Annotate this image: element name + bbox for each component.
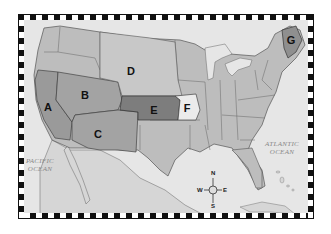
label-d: D (127, 65, 135, 77)
checkered-border-right (308, 14, 314, 219)
compass-rose: N S E W (201, 170, 231, 210)
label-a: A (44, 101, 52, 113)
label-c: C (94, 128, 102, 140)
atlantic-ocean-label: ATLANTIC OCEAN (265, 140, 299, 156)
label-f: F (184, 102, 191, 114)
pacific-ocean-label: PACIFIC OCEAN (26, 157, 54, 173)
pacific-line1: PACIFIC (26, 157, 54, 165)
label-g: G (287, 34, 296, 46)
label-e: E (150, 104, 157, 116)
atlantic-line2: OCEAN (265, 148, 299, 156)
checkered-border-top (18, 14, 314, 20)
compass-w: W (197, 187, 203, 193)
pacific-line2: OCEAN (26, 165, 54, 173)
map-frame (18, 14, 314, 219)
atlantic-line1: ATLANTIC (265, 140, 299, 148)
checkered-border-left (18, 14, 24, 219)
label-b: B (81, 89, 89, 101)
bahamas (276, 171, 294, 191)
us-map (18, 14, 314, 219)
compass-s: S (211, 203, 215, 209)
checkered-border-bottom (18, 213, 314, 219)
compass-n: N (211, 170, 215, 176)
compass-e: E (223, 187, 227, 193)
